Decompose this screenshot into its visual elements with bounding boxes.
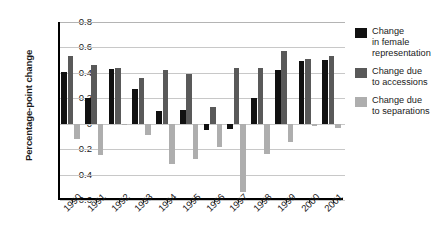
bar (335, 124, 341, 128)
bar (281, 51, 287, 123)
bar (193, 124, 199, 160)
bar (163, 70, 169, 123)
bar (210, 107, 216, 124)
chart-legend: Change in female representation Change d… (355, 26, 441, 124)
legend-label-line: Change (372, 26, 441, 37)
bar (275, 70, 281, 123)
bar (68, 56, 74, 123)
bar-group (203, 22, 227, 200)
bar-group (60, 22, 84, 200)
bar (61, 72, 67, 124)
bar-group (84, 22, 108, 200)
bar (115, 68, 121, 124)
bar (264, 124, 270, 155)
plot-area (58, 22, 343, 200)
bar-group (250, 22, 274, 200)
dark-gray-swatch-icon (355, 68, 367, 78)
legend-label: Change in female representation (372, 26, 441, 59)
bar-group (155, 22, 179, 200)
bar (227, 124, 233, 129)
bar (186, 74, 192, 124)
bar-group (321, 22, 345, 200)
bar (74, 124, 80, 139)
bar (180, 110, 186, 124)
bar (145, 124, 151, 135)
bar (240, 124, 246, 193)
legend-label: Change due to accessions (372, 66, 441, 88)
bar (109, 69, 115, 124)
bar-series-group (60, 22, 345, 200)
bar-group (131, 22, 155, 200)
bar (234, 68, 240, 124)
bar (322, 60, 328, 124)
black-swatch-icon (355, 28, 367, 38)
legend-label: Change due to separations (372, 95, 441, 117)
bar (258, 68, 264, 124)
legend-item: Change in female representation (355, 26, 441, 59)
bar-group (226, 22, 250, 200)
legend-label-line: in female (372, 37, 441, 48)
bar (217, 124, 223, 147)
light-gray-swatch-icon (355, 97, 367, 107)
legend-label-line: to separations (372, 106, 441, 117)
bar (204, 124, 210, 130)
bar-group (179, 22, 203, 200)
bar (312, 124, 318, 127)
bar-group (274, 22, 298, 200)
bar (139, 78, 145, 124)
legend-item: Change due to accessions (355, 66, 441, 88)
bar (288, 124, 294, 142)
bar (305, 59, 311, 124)
bar-group (298, 22, 322, 200)
bar (91, 65, 97, 123)
bar (85, 98, 91, 123)
bar (156, 111, 162, 124)
bar (251, 98, 257, 123)
legend-label-line: Change due (372, 66, 441, 77)
bar (132, 89, 138, 123)
bar (169, 124, 175, 165)
bar (299, 61, 305, 123)
chart-container: Percentage-point change 0.80.60.40.20-0.… (0, 0, 441, 246)
legend-label-line: representation (372, 48, 441, 59)
legend-label-line: Change due (372, 95, 441, 106)
bar (122, 124, 128, 125)
legend-item: Change due to separations (355, 95, 441, 117)
bar (98, 124, 104, 156)
y-axis-title: Percentage-point change (23, 16, 34, 196)
legend-label-line: to accessions (372, 77, 441, 88)
bar-group (108, 22, 132, 200)
bar (329, 56, 335, 123)
